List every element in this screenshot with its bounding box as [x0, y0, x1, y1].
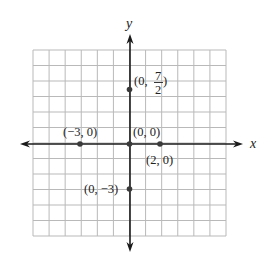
- point-origin: [127, 141, 133, 147]
- y-axis-label: y: [124, 16, 133, 31]
- coordinate-plane: x y (0, 7 2 ) (−3, 0) (0, 0) (2, 0) (0, …: [0, 0, 269, 264]
- point-0-7-2: [127, 87, 133, 93]
- label-2-0: (2, 0): [146, 153, 173, 167]
- label-0-7-2-close: ): [163, 74, 167, 88]
- label-0-7-2: (0, 7 2 ): [134, 69, 167, 97]
- point-neg3-0: [77, 141, 83, 147]
- label-0-7-2-denominator: 2: [155, 83, 161, 97]
- x-axis-label: x: [249, 136, 257, 151]
- point-2-0: [157, 141, 163, 147]
- point-0-neg3: [127, 186, 133, 192]
- label-0-7-2-numerator: 7: [155, 69, 161, 83]
- label-neg3-0: (−3, 0): [63, 125, 97, 139]
- label-origin: (0, 0): [133, 125, 160, 139]
- points: [77, 87, 163, 192]
- label-0-neg3: (0, −3): [84, 182, 118, 196]
- label-0-7-2-open: (0,: [134, 74, 148, 88]
